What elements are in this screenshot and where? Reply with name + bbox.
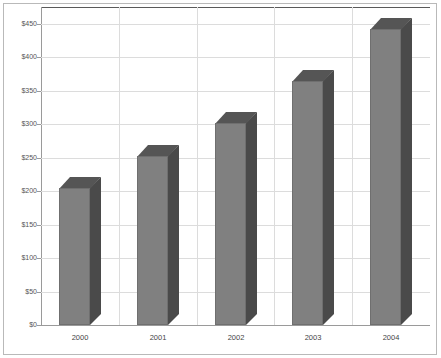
category-separator bbox=[352, 7, 353, 325]
y-axis-tick bbox=[37, 191, 41, 192]
category-separator bbox=[119, 7, 120, 325]
x-axis-tick-label: 2004 bbox=[361, 333, 421, 342]
category-separator bbox=[274, 7, 275, 325]
x-axis-tick-label: 2000 bbox=[50, 333, 110, 342]
y-axis-tick-label: $200 bbox=[3, 187, 37, 195]
y-axis-tick bbox=[37, 258, 41, 259]
category-separator bbox=[197, 7, 198, 325]
bar[interactable] bbox=[370, 18, 412, 325]
bar[interactable] bbox=[59, 177, 101, 325]
y-axis-tick-label: $0 bbox=[3, 321, 37, 329]
bar-side-face bbox=[90, 177, 101, 325]
bar-front-face bbox=[59, 188, 90, 325]
y-axis-tick-label: $250 bbox=[3, 154, 37, 162]
bar[interactable] bbox=[215, 112, 257, 325]
bar-chart: $0$50$100$150$200$250$300$350$400$450 20… bbox=[0, 0, 441, 358]
y-axis-tick bbox=[37, 124, 41, 125]
y-axis-tick-label: $100 bbox=[3, 254, 37, 262]
bar-front-face bbox=[292, 81, 323, 325]
x-axis-tick-label: 2003 bbox=[283, 333, 343, 342]
y-axis-tick bbox=[37, 57, 41, 58]
bar-side-face bbox=[246, 112, 257, 325]
y-axis-tick bbox=[37, 225, 41, 226]
bar[interactable] bbox=[137, 145, 179, 325]
bar-front-face bbox=[215, 123, 246, 325]
y-axis-tick-label: $150 bbox=[3, 221, 37, 229]
bar-side-face bbox=[323, 70, 334, 325]
y-axis-tick-label: $400 bbox=[3, 53, 37, 61]
y-axis-tick bbox=[37, 91, 41, 92]
x-axis-line bbox=[41, 325, 430, 326]
x-axis-tick-label: 2002 bbox=[206, 333, 266, 342]
y-axis-tick bbox=[37, 24, 41, 25]
bar-side-face bbox=[168, 145, 179, 325]
y-axis-tick bbox=[37, 325, 41, 326]
bar-front-face bbox=[370, 29, 401, 325]
y-axis-tick-label: $450 bbox=[3, 20, 37, 28]
y-axis-tick-label: $50 bbox=[3, 288, 37, 296]
y-axis-tick bbox=[37, 158, 41, 159]
x-axis-tick-label: 2001 bbox=[128, 333, 188, 342]
bar[interactable] bbox=[292, 70, 334, 325]
bar-front-face bbox=[137, 156, 168, 325]
y-axis-tick bbox=[37, 292, 41, 293]
y-axis-tick-label: $300 bbox=[3, 120, 37, 128]
y-axis-tick-label: $350 bbox=[3, 87, 37, 95]
bar-side-face bbox=[401, 18, 412, 325]
